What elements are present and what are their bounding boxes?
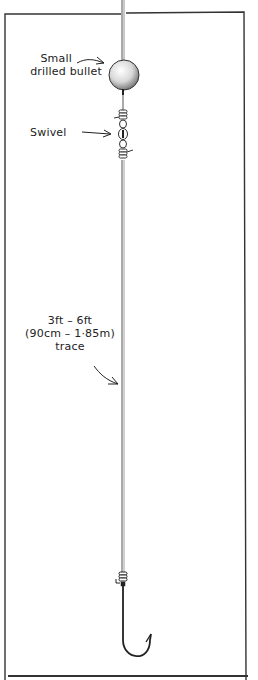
swivel-label: Swivel — [30, 126, 67, 139]
trace-label-line1: 3ft – 6ft — [18, 314, 122, 327]
bullet-label: Small drilled bullet — [12, 52, 102, 78]
arrow-to-swivel — [82, 130, 111, 137]
bullet-label-line1: Small — [12, 52, 102, 65]
diagram-canvas: Small drilled bullet Swivel 3ft – 6ft (9… — [0, 0, 258, 680]
trace-label-line3: trace — [18, 340, 122, 353]
hook-icon — [116, 572, 151, 656]
swivel-icon — [114, 110, 133, 158]
trace-label-line2: (90cm – 1·85m) — [18, 327, 122, 340]
arrow-to-trace — [94, 366, 118, 384]
bullet-sinker-icon — [109, 60, 139, 95]
bullet-label-line2: drilled bullet — [12, 65, 102, 78]
main-line — [122, 0, 124, 62]
trace-label: 3ft – 6ft (90cm – 1·85m) trace — [18, 314, 122, 353]
trace-line — [122, 160, 124, 573]
